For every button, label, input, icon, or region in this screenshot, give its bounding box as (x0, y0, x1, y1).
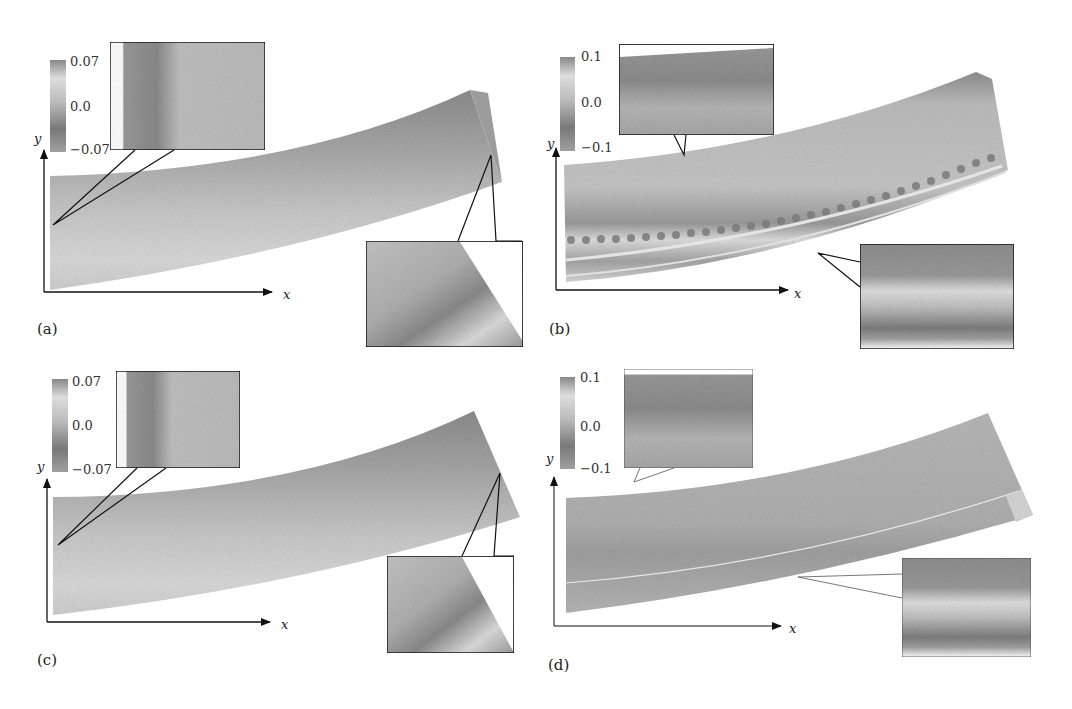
panel-label: (a) (37, 322, 58, 337)
x-axis-label: x (789, 622, 796, 635)
colorbar (52, 379, 68, 472)
colorbar-max-label: 0.07 (72, 375, 101, 388)
colorbar-max-label: 0.1 (580, 371, 601, 384)
colorbar-min-label: −0.07 (72, 463, 112, 476)
x-axis-label: x (794, 287, 801, 300)
colorbar (560, 377, 575, 469)
colorbar-mid-label: 0.0 (580, 420, 601, 433)
y-axis-label: y (547, 137, 554, 150)
inset-callout (634, 468, 674, 482)
panel-d: 0.1 0.0 −0.1 y x (d) (536, 355, 1072, 709)
inset-callout (674, 135, 686, 155)
colorbar-min-label: −0.1 (580, 462, 612, 475)
x-axis-label: x (283, 288, 290, 301)
inset-white-strip (625, 370, 753, 375)
inset-edge-detail (619, 44, 774, 135)
inset-edge-detail (624, 369, 753, 468)
colorbar-mid-label: 0.0 (70, 100, 91, 113)
colorbar (50, 60, 66, 152)
colorbar-min-label: −0.07 (70, 143, 110, 156)
inset-band-detail (860, 244, 1014, 349)
y-axis-label: y (34, 132, 41, 145)
inset-callout (798, 574, 902, 598)
panel-d-graphic (536, 355, 1072, 709)
colorbar-max-label: 0.07 (70, 55, 99, 68)
inset-edge-detail (110, 42, 265, 150)
panel-b: 0.1 0.0 −0.1 y x (b) (536, 0, 1072, 355)
colorbar-mid-label: 0.0 (581, 96, 602, 109)
y-axis-label: y (37, 460, 44, 473)
panel-c: 0.07 0.0 −0.07 y x (c) (0, 355, 536, 709)
colorbar-max-label: 0.1 (581, 50, 602, 63)
panel-label: (c) (37, 653, 57, 668)
colorbar (560, 57, 575, 151)
colorbar-min-label: −0.1 (581, 141, 613, 154)
inset-edge-detail (116, 371, 240, 468)
inset-callout (818, 253, 860, 287)
panel-b-graphic (536, 0, 1072, 355)
y-axis-label: y (546, 452, 553, 465)
inset-band-detail (902, 558, 1031, 657)
panel-label: (d) (548, 658, 569, 673)
panel-label: (b) (549, 322, 570, 337)
panel-c-graphic (0, 355, 536, 709)
panel-a: 0.07 0.0 −0.07 y x (a) (0, 0, 536, 355)
x-axis-label: x (281, 618, 288, 631)
colorbar-mid-label: 0.0 (72, 419, 93, 432)
